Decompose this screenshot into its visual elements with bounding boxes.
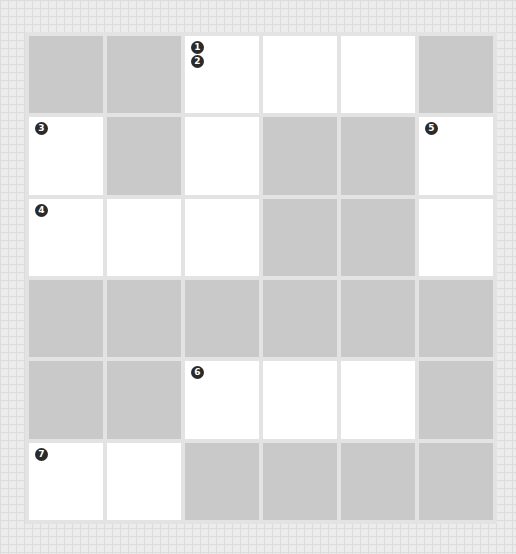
- block-cell: [263, 280, 337, 357]
- open-cell[interactable]: [107, 199, 181, 276]
- block-cell: [341, 280, 415, 357]
- block-cell: [341, 443, 415, 520]
- open-cell[interactable]: [185, 199, 259, 276]
- open-cell[interactable]: 12: [185, 36, 259, 113]
- clue-number-badge: 3: [35, 122, 48, 135]
- clue-number-badge: 6: [191, 366, 204, 379]
- crossword-grid: 1235467: [25, 32, 497, 524]
- clue-numbers: 12: [191, 41, 204, 68]
- open-cell[interactable]: [263, 361, 337, 438]
- open-cell[interactable]: [419, 199, 493, 276]
- block-cell: [29, 36, 103, 113]
- clue-number-badge: 2: [191, 55, 204, 68]
- open-cell[interactable]: [185, 117, 259, 194]
- block-cell: [185, 443, 259, 520]
- block-cell: [263, 117, 337, 194]
- block-cell: [107, 280, 181, 357]
- block-cell: [107, 361, 181, 438]
- block-cell: [29, 280, 103, 357]
- block-cell: [263, 199, 337, 276]
- block-cell: [107, 36, 181, 113]
- open-cell[interactable]: [341, 361, 415, 438]
- open-cell[interactable]: [341, 36, 415, 113]
- clue-numbers: 5: [425, 122, 438, 135]
- block-cell: [29, 361, 103, 438]
- open-cell[interactable]: [107, 443, 181, 520]
- open-cell[interactable]: 5: [419, 117, 493, 194]
- clue-number-badge: 5: [425, 122, 438, 135]
- clue-number-badge: 4: [35, 204, 48, 217]
- block-cell: [419, 361, 493, 438]
- block-cell: [185, 280, 259, 357]
- block-cell: [419, 280, 493, 357]
- open-cell[interactable]: [263, 36, 337, 113]
- block-cell: [263, 443, 337, 520]
- clue-numbers: 6: [191, 366, 204, 379]
- open-cell[interactable]: 3: [29, 117, 103, 194]
- clue-numbers: 3: [35, 122, 48, 135]
- open-cell[interactable]: 4: [29, 199, 103, 276]
- block-cell: [341, 199, 415, 276]
- clue-numbers: 4: [35, 204, 48, 217]
- block-cell: [419, 36, 493, 113]
- open-cell[interactable]: 7: [29, 443, 103, 520]
- clue-number-badge: 1: [191, 41, 204, 54]
- block-cell: [107, 117, 181, 194]
- open-cell[interactable]: 6: [185, 361, 259, 438]
- clue-number-badge: 7: [35, 448, 48, 461]
- block-cell: [419, 443, 493, 520]
- block-cell: [341, 117, 415, 194]
- clue-numbers: 7: [35, 448, 48, 461]
